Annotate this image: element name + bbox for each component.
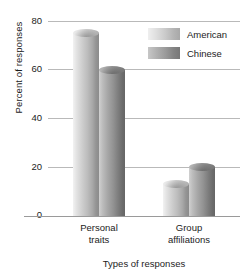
x-axis-title: Types of responses — [48, 258, 240, 269]
x-category-label-line1: Personal — [53, 222, 145, 234]
legend-swatch-chinese — [148, 47, 180, 59]
bar-top-shade — [73, 29, 99, 37]
bar-body — [189, 167, 215, 216]
bar-top-shade — [163, 180, 189, 188]
y-axis-title: Percent of responses — [13, 0, 24, 143]
legend-label-american: American — [187, 29, 227, 40]
y-tick-label-20: 20 — [14, 161, 42, 172]
x-category-label-line2: affiliations — [143, 234, 235, 246]
legend-item-chinese: Chinese — [148, 46, 227, 60]
y-tick-label-0: 0 — [14, 209, 42, 220]
x-category-label-line2: traits — [53, 234, 145, 246]
x-category-label-group-affiliations: Group affiliations — [143, 222, 235, 245]
legend-label-chinese: Chinese — [187, 48, 222, 59]
plot-area: American Chinese — [48, 21, 240, 216]
bar-american-group-affiliations — [163, 184, 189, 216]
bar-top-shade — [99, 66, 125, 74]
gridline-80 — [48, 21, 240, 22]
bar-body — [73, 33, 99, 216]
x-category-label-line1: Group — [143, 222, 235, 234]
bar-top-shade — [189, 163, 215, 171]
legend: American Chinese — [148, 27, 227, 65]
bar-chinese-group-affiliations — [189, 167, 215, 216]
x-category-label-personal-traits: Personal traits — [53, 222, 145, 245]
x-axis-line — [24, 216, 240, 217]
bar-chinese-personal-traits — [99, 70, 125, 216]
bar-chart: Percent of responses 80 60 40 20 0 — [0, 0, 250, 278]
bar-american-personal-traits — [73, 33, 99, 216]
legend-swatch-american — [148, 28, 180, 40]
legend-item-american: American — [148, 27, 227, 41]
bar-body — [99, 70, 125, 216]
bar-body — [163, 184, 189, 216]
